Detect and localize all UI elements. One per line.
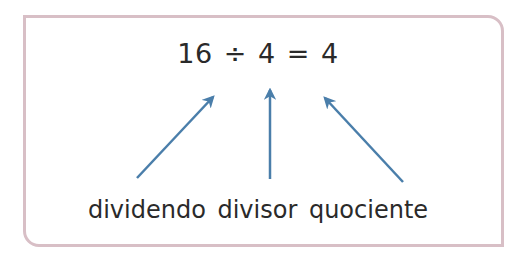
quotient-label: quociente [309, 196, 428, 224]
dividend-arrow-icon [137, 97, 213, 178]
divisor-label: divisor [217, 196, 297, 224]
term-labels: dividendo divisor quociente [0, 196, 516, 224]
quotient-arrow-icon [325, 98, 403, 182]
dividend-label: dividendo [88, 196, 206, 224]
